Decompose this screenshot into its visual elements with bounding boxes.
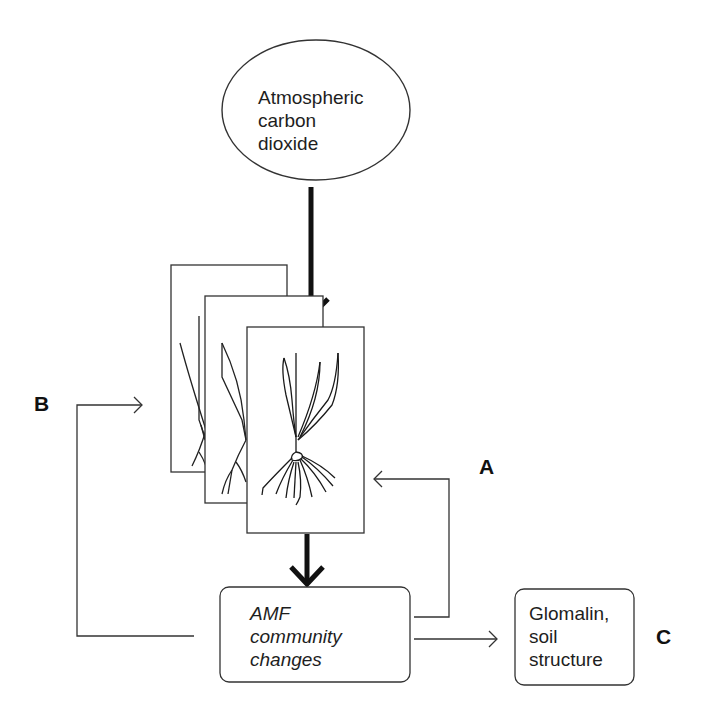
glomalin-line-2: soil: [529, 625, 609, 648]
co2-line-2: carbon: [258, 109, 364, 132]
label-c: C: [656, 624, 671, 650]
glomalin-line-3: structure: [529, 648, 609, 671]
amf-line-2: community: [250, 625, 342, 648]
thick-arrow-plants-to-amf: [291, 534, 323, 584]
arrow-amf-to-glomalin: [414, 631, 497, 647]
amf-line-1: AMF: [250, 602, 342, 625]
co2-line-3: dioxide: [258, 132, 364, 155]
co2-label: Atmospheric carbon dioxide: [258, 86, 364, 156]
amf-line-3: changes: [250, 648, 342, 671]
label-a: A: [479, 454, 494, 480]
co2-line-1: Atmospheric: [258, 86, 364, 109]
glomalin-label: Glomalin, soil structure: [529, 602, 609, 672]
glomalin-line-1: Glomalin,: [529, 602, 609, 625]
plant-panel-front: [247, 327, 364, 533]
amf-label: AMF community changes: [250, 602, 342, 672]
label-b: B: [34, 391, 49, 417]
